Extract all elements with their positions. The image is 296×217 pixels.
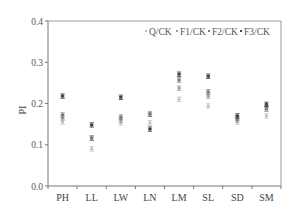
data-point [119,115,123,119]
y-axis-label: PI [17,106,28,115]
legend: Q/CKF1/CKF2/CKF3/CK [145,27,270,37]
legend-item: F1/CK [176,27,206,37]
data-point [148,112,152,116]
y-tick-label: 0.0 [31,182,43,192]
data-point [177,97,181,101]
data-point [177,78,181,82]
x-category-label: SM [259,192,274,203]
data-point [89,136,93,140]
data-point [148,127,152,131]
data-point [206,74,210,78]
y-tick-label: 0.1 [31,140,43,150]
legend-item: F2/CK [208,27,238,37]
legend-label: F2/CK [212,27,238,37]
data-points [60,72,268,151]
data-point [177,86,181,90]
data-point [119,95,123,99]
data-point [60,113,64,117]
data-point [206,104,210,108]
legend-marker-icon [240,30,242,32]
legend-label: F3/CK [244,27,270,37]
y-tick-label: 0.4 [31,17,43,27]
y-tick-label: 0.2 [31,99,43,109]
x-category-label: LW [113,192,128,203]
x-category-label: SL [202,192,214,203]
chart-canvas: 0.00.10.20.30.4PHLLLWLNLMSLSDSM Q/CKF1/C… [0,0,296,217]
y-tick-label: 0.3 [31,58,43,68]
data-point [264,102,268,106]
x-category-label: LM [172,192,187,203]
axes: 0.00.10.20.30.4PHLLLWLNLMSLSDSM [31,17,281,204]
legend-item: Q/CK [145,27,172,37]
legend-marker-icon [208,30,210,32]
legend-label: Q/CK [149,27,172,37]
x-category-label: SD [231,192,244,203]
data-point [264,114,268,118]
data-point [89,147,93,151]
data-point [177,72,181,76]
legend-label: F1/CK [180,27,206,37]
x-category-label: PH [56,192,69,203]
data-point [89,123,93,127]
legend-item: F3/CK [240,27,270,37]
legend-marker-icon [145,30,147,32]
legend-marker-icon [176,30,178,32]
x-category-label: LN [143,192,156,203]
x-category-label: LL [86,192,98,203]
data-point [60,94,64,98]
data-point [148,121,152,125]
